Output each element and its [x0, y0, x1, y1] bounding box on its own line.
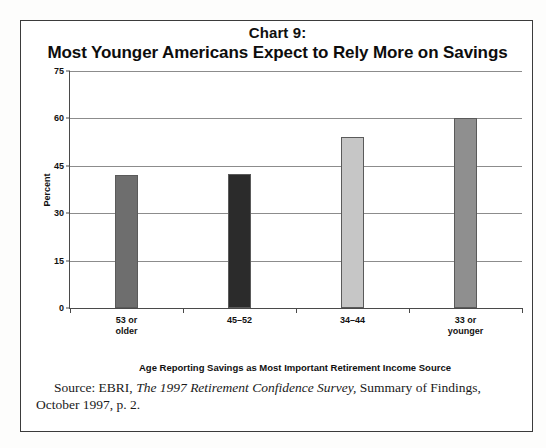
y-tick-mark-30 [66, 213, 70, 214]
y-tick-label-30: 30 [54, 208, 64, 218]
source-note: Source: EBRI, The 1997 Retirement Confid… [36, 379, 536, 413]
source-prefix: Source: EBRI, [54, 380, 133, 395]
x-tick-mark-3 [522, 308, 523, 313]
bar-2 [341, 137, 364, 308]
gridline-75 [70, 71, 522, 72]
chart-title-line-2: Most Younger Americans Expect to Rely Mo… [21, 42, 534, 64]
y-tick-label-0: 0 [59, 303, 64, 313]
x-tick-mark-0 [183, 308, 184, 313]
chart-title-block: Chart 9: Most Younger Americans Expect t… [21, 23, 534, 64]
source-line-2: October 1997, p. 2. [36, 397, 140, 412]
y-tick-mark-45 [66, 165, 70, 166]
x-tick-mark-1 [296, 308, 297, 313]
y-tick-mark-75 [66, 71, 70, 72]
y-tick-mark-15 [66, 260, 70, 261]
y-tick-label-75: 75 [54, 66, 64, 76]
x-tick-label-0: 53 or older [115, 315, 137, 337]
y-tick-label-45: 45 [54, 161, 64, 171]
y-tick-mark-60 [66, 118, 70, 119]
plot-area: Percent 01530456075 53 or older45–5234–4… [69, 71, 522, 309]
bar-0 [115, 175, 138, 308]
y-axis-title: Percent [42, 173, 52, 206]
y-tick-label-60: 60 [54, 113, 64, 123]
bar-3 [454, 118, 477, 308]
bar-1 [228, 174, 251, 308]
source-publication-title: The 1997 Retirement Confidence Survey, [136, 380, 356, 395]
x-tick-label-3: 33 or younger [448, 315, 484, 337]
x-tick-mark-2 [409, 308, 410, 313]
source-suffix: Summary of Findings, [360, 380, 481, 395]
x-axis-title: Age Reporting Savings as Most Important … [69, 362, 521, 373]
chart-frame: Chart 9: Most Younger Americans Expect t… [20, 20, 533, 432]
x-tick-label-2: 34–44 [340, 315, 365, 326]
chart-title-line-1: Chart 9: [21, 23, 534, 42]
y-tick-label-15: 15 [54, 256, 64, 266]
x-tick-label-1: 45–52 [227, 315, 252, 326]
x-tick-mark-origin [70, 308, 71, 313]
